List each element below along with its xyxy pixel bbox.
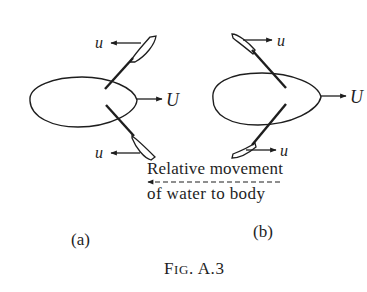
panel-a: U u u (30, 34, 180, 161)
panel-b: U u u (213, 32, 364, 159)
figure-caption-smallcaps: IG (174, 262, 189, 277)
body-velocity-label-a: U (166, 90, 180, 110)
figure-canvas: U u u U u u (0, 0, 367, 292)
figure-caption-initial: F (164, 259, 174, 278)
figure-caption: FIG. A.3 (164, 259, 225, 279)
upper-fin-rod-b (252, 50, 286, 88)
panel-b-caption: (b) (253, 222, 273, 242)
upper-fin-blade-a (130, 36, 156, 62)
lower-fin-velocity-label-a: u (95, 144, 103, 161)
panel-a-caption: (a) (71, 230, 90, 250)
relative-movement-text: Relative movement (147, 159, 283, 179)
lower-fin-blade-a (132, 136, 155, 160)
body-velocity-label-b: U (350, 87, 364, 107)
figure-caption-number: . A.3 (189, 259, 225, 278)
lower-fin-rod-a (106, 105, 134, 136)
body-outline-a (30, 77, 137, 127)
lower-fin-velocity-label-b: u (280, 142, 288, 159)
water-to-body-text: of water to body (147, 184, 265, 204)
body-outline-b (213, 73, 321, 125)
upper-fin-velocity-label-a: u (95, 34, 103, 51)
upper-fin-velocity-label-b: u (277, 32, 285, 49)
